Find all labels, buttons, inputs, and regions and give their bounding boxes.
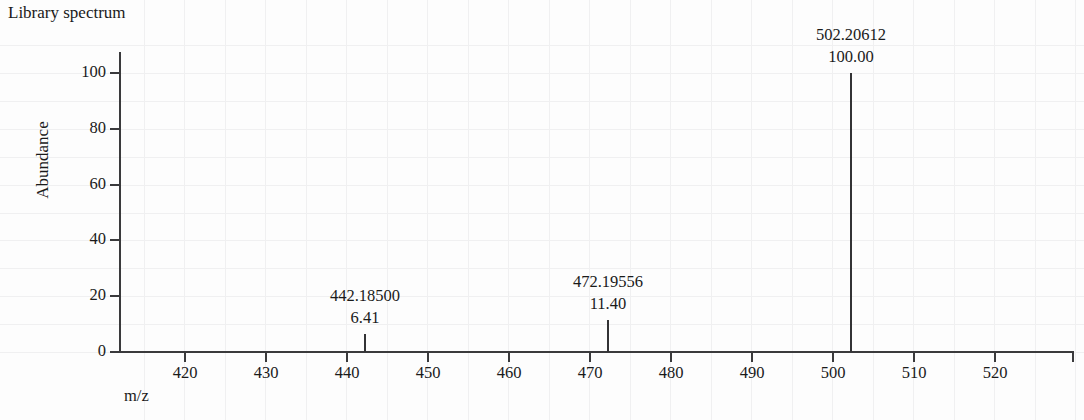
y-axis-tick-label-wrap: 40 [60, 231, 106, 247]
x-axis-tick-label: 470 [560, 364, 620, 382]
x-axis-tick-label: 450 [398, 364, 458, 382]
y-axis-tick-label: 40 [62, 231, 106, 247]
y-axis-tick [110, 72, 119, 74]
gridline-vertical [549, 0, 550, 420]
y-axis-label: Abundance [33, 100, 53, 220]
gridline-vertical [1035, 0, 1036, 420]
gridline-vertical [1075, 0, 1076, 420]
y-axis-tick-label-wrap: 0 [60, 343, 106, 359]
x-axis-tick [751, 353, 753, 362]
gridline-horizontal [0, 73, 1084, 74]
peak-mz-label: 502.20612 [761, 25, 941, 45]
gridline-horizontal [0, 240, 1084, 241]
y-axis-tick-label: 100 [62, 64, 106, 80]
y-axis-tick-label-wrap: 80 [60, 120, 106, 136]
peak-stem [364, 334, 366, 352]
peak-mz-label: 472.19556 [518, 272, 698, 292]
x-axis-tick-end [1072, 353, 1074, 362]
gridline-horizontal [0, 213, 1084, 214]
x-axis-tick-label: 480 [641, 364, 701, 382]
x-axis-label: m/z [124, 386, 149, 406]
page-title: Library spectrum [8, 2, 126, 24]
gridline-horizontal [0, 324, 1084, 325]
x-axis-tick-label: 510 [884, 364, 944, 382]
gridline-vertical [468, 0, 469, 420]
x-axis-line [119, 351, 1074, 353]
x-axis-tick [265, 353, 267, 362]
gridline-vertical [387, 0, 388, 420]
gridline-horizontal [0, 185, 1084, 186]
peak-abundance-label: 11.40 [518, 294, 698, 314]
gridline-horizontal [0, 45, 1084, 46]
peak-stem [850, 73, 852, 352]
y-axis-tick-label-wrap: 20 [60, 287, 106, 303]
x-axis-tick-label: 490 [722, 364, 782, 382]
y-axis-tick-label: 0 [62, 343, 106, 359]
peak-abundance-label: 100.00 [761, 47, 941, 67]
gridline-horizontal [0, 101, 1084, 102]
x-axis-tick [832, 353, 834, 362]
y-axis-tick-label: 60 [62, 176, 106, 192]
gridline-horizontal [0, 268, 1084, 269]
gridline-vertical [306, 0, 307, 420]
x-axis-tick-label: 520 [965, 364, 1025, 382]
y-axis-line [119, 52, 121, 353]
x-axis-tick-label: 430 [236, 364, 296, 382]
x-axis-tick-label: 460 [479, 364, 539, 382]
gridline-vertical [144, 0, 145, 420]
y-axis-tick [110, 295, 119, 297]
x-axis-tick [427, 353, 429, 362]
y-axis-tick [110, 351, 119, 353]
x-axis-tick [346, 353, 348, 362]
y-axis-tick [110, 184, 119, 186]
peak-mz-label: 442.18500 [275, 286, 455, 306]
x-axis-tick-label: 420 [155, 364, 215, 382]
y-axis-tick [110, 128, 119, 130]
x-axis-tick [994, 353, 996, 362]
peak-abundance-label: 6.41 [275, 308, 455, 328]
x-axis-tick [913, 353, 915, 362]
x-axis-tick [184, 353, 186, 362]
gridline-vertical [225, 0, 226, 420]
gridline-vertical [954, 0, 955, 420]
y-axis-tick-label-wrap: 60 [60, 176, 106, 192]
peak-stem [607, 320, 609, 352]
y-axis-tick-label: 20 [62, 287, 106, 303]
y-axis-tick [110, 239, 119, 241]
x-axis-tick-label: 440 [317, 364, 377, 382]
x-axis-tick [589, 353, 591, 362]
y-axis-tick-label: 80 [62, 120, 106, 136]
x-axis-tick [670, 353, 672, 362]
gridline-horizontal [0, 157, 1084, 158]
y-axis-tick-label-wrap: 100 [60, 64, 106, 80]
gridline-vertical [630, 0, 631, 420]
gridline-horizontal [0, 129, 1084, 130]
x-axis-tick [508, 353, 510, 362]
x-axis-tick-label: 500 [803, 364, 863, 382]
gridline-vertical [711, 0, 712, 420]
